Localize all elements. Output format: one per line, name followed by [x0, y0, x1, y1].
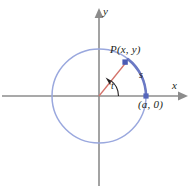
label-angle-t: t: [111, 81, 114, 91]
label-x-axis: x: [172, 80, 177, 91]
label-point-p: P(x, y): [110, 44, 141, 55]
point-marker-P: [122, 59, 127, 64]
label-y-axis: y: [103, 6, 108, 17]
diagram-canvas: [0, 0, 192, 192]
circle-diagram: P(x, y) (a, 0) s t x y: [0, 0, 192, 192]
label-point-a: (a, 0): [138, 99, 163, 110]
label-arc-s: s: [139, 70, 143, 80]
x-axis-arrowhead: [178, 92, 188, 101]
arc-s: [128, 59, 146, 96]
